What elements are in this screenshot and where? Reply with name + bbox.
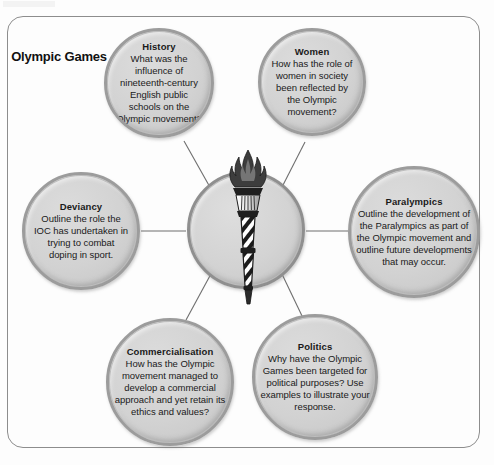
- link-women: [281, 142, 305, 189]
- node-deviancy-title: Deviancy: [60, 201, 103, 213]
- link-history: [184, 141, 211, 189]
- node-commercialisation[interactable]: Commercialisation How has the Olympic mo…: [106, 318, 234, 446]
- link-politics: [281, 272, 303, 318]
- node-deviancy-body: Outline the role the IOC has undertaken …: [25, 213, 137, 261]
- node-paralympics-body: Outline the development of the Paralympi…: [351, 208, 477, 268]
- node-history-title: History: [142, 41, 175, 53]
- node-centre[interactable]: [187, 171, 305, 289]
- diagram-canvas: History What was the influence of ninete…: [0, 0, 494, 465]
- node-paralympics[interactable]: Paralympics Outline the development of t…: [348, 166, 480, 298]
- node-centre-label: Olympic Games: [0, 49, 118, 64]
- node-commercialisation-title: Commercialisation: [127, 346, 214, 358]
- node-women-title: Women: [295, 46, 330, 58]
- node-history[interactable]: History What was the influence of ninete…: [104, 28, 214, 138]
- node-politics-body: Why have the Olympic Games been targeted…: [255, 353, 375, 413]
- link-commercialisation: [186, 272, 212, 320]
- node-deviancy[interactable]: Deviancy Outline the role the IOC has un…: [22, 172, 140, 290]
- node-paralympics-title: Paralympics: [385, 196, 442, 208]
- node-women[interactable]: Women How has the role of women in socie…: [258, 28, 366, 136]
- node-politics[interactable]: Politics Why have the Olympic Games been…: [252, 314, 378, 440]
- node-women-body: How has the role of women in society bee…: [261, 58, 363, 118]
- node-history-body: What was the influence of nineteenth-cen…: [107, 53, 211, 125]
- node-commercialisation-body: How has the Olympic movement managed to …: [109, 358, 231, 418]
- node-politics-title: Politics: [298, 341, 333, 353]
